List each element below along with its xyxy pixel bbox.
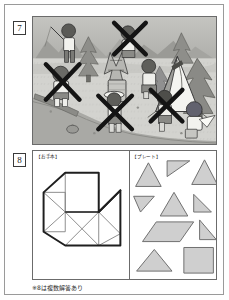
inner-lines bbox=[44, 173, 121, 246]
outline-diagonal bbox=[99, 190, 121, 212]
mihon-figure-area bbox=[33, 151, 129, 279]
question-number-7: 7 bbox=[13, 21, 26, 35]
figure-outline bbox=[44, 173, 121, 246]
plate-triangle-right-small[interactable] bbox=[200, 220, 217, 240]
plate-square[interactable] bbox=[184, 247, 214, 273]
plate-parallelogram[interactable] bbox=[142, 222, 193, 242]
plate-triangle-right-mid[interactable] bbox=[194, 194, 212, 212]
camping-scene-illustration bbox=[33, 17, 216, 144]
plate-triangle-large-2[interactable] bbox=[192, 160, 217, 185]
worksheet-page: 7 bbox=[0, 0, 229, 300]
plate-triangle-large-3[interactable] bbox=[160, 192, 188, 216]
frog bbox=[67, 125, 79, 133]
question-8-tangram-panel: 【お手本】 【プレート】 bbox=[32, 150, 217, 280]
footer-note: ※8は複数解答あり bbox=[32, 283, 83, 292]
plate-triangle-right-top[interactable] bbox=[167, 161, 190, 177]
plate-pieces bbox=[130, 151, 217, 279]
plate-triangle-wide-bottom[interactable] bbox=[137, 249, 172, 271]
plate-triangle-large-1[interactable] bbox=[136, 163, 162, 187]
plate-triangle-right-left[interactable] bbox=[134, 196, 155, 212]
question-7-illustration-panel bbox=[32, 16, 217, 145]
question-number-8: 8 bbox=[13, 153, 26, 167]
tangram-outline-figure bbox=[33, 151, 129, 279]
plate-pieces-area bbox=[130, 151, 217, 279]
